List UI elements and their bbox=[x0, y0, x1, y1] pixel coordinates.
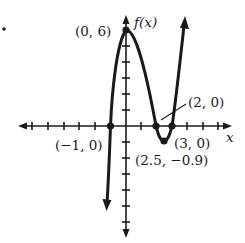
point-root-left bbox=[107, 122, 114, 129]
x-axis-left-arrow-icon bbox=[18, 123, 27, 130]
x-axis bbox=[22, 122, 228, 130]
root-mid-label: (2, 0) bbox=[188, 94, 224, 110]
y-axis bbox=[122, 20, 130, 234]
root-left-label: (−1, 0) bbox=[55, 137, 103, 153]
max-point-label: (0, 6) bbox=[75, 23, 111, 39]
x-axis-label: x bbox=[226, 129, 234, 145]
point-root-mid bbox=[152, 122, 159, 129]
y-axis-top-arrow-icon bbox=[123, 15, 130, 24]
point-min bbox=[160, 137, 167, 144]
function-graph: f(x) x (0, 6) (2, 0) (−1, 0) (3, 0) (2.5… bbox=[0, 0, 245, 243]
bullet-marker bbox=[2, 27, 6, 31]
y-axis-label: f(x) bbox=[133, 14, 157, 30]
root-right-label: (3, 0) bbox=[174, 135, 210, 151]
point-root-right bbox=[168, 122, 175, 129]
function-curve bbox=[107, 26, 184, 204]
y-axis-bottom-arrow-icon bbox=[123, 229, 130, 238]
curve-down-arrow-icon bbox=[103, 199, 112, 211]
curve-up-arrow-icon bbox=[180, 16, 189, 29]
min-point-label: (2.5, −0.9) bbox=[135, 152, 208, 168]
point-max bbox=[122, 26, 129, 33]
